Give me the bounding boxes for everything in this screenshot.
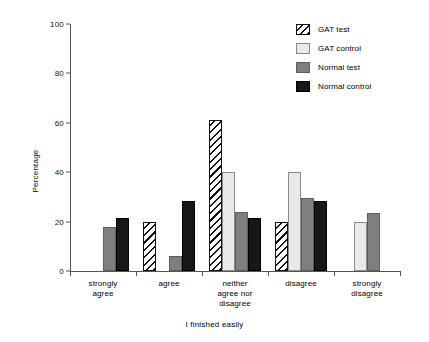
y-tick-label: 40: [0, 168, 70, 177]
legend-item: GAT control: [296, 39, 371, 58]
y-tick-label: 80: [0, 69, 70, 78]
x-category-label-line: agree: [70, 289, 136, 299]
bar: [354, 222, 367, 271]
legend-swatch: [296, 43, 310, 54]
x-category-label-line: neither: [202, 279, 268, 289]
x-category-label-line: disagree: [202, 299, 268, 309]
x-tick-mark: [334, 271, 335, 276]
bar: [116, 218, 129, 271]
legend-label: Normal control: [318, 82, 371, 91]
x-axis-line: [70, 271, 401, 272]
bar: [314, 201, 327, 271]
bar: [209, 120, 222, 271]
x-tick-mark: [136, 271, 137, 276]
legend-swatch: [296, 62, 310, 73]
x-category-label: disagree: [268, 279, 334, 289]
legend-label: GAT control: [318, 44, 361, 53]
bar: [103, 227, 116, 271]
chart-legend: GAT testGAT controlNormal testNormal con…: [296, 20, 371, 96]
x-category-label: agree: [136, 279, 202, 289]
legend-label: GAT test: [318, 25, 350, 34]
bar: [248, 218, 261, 271]
legend-label: Normal test: [318, 63, 360, 72]
bar: [143, 222, 156, 271]
bar: [275, 222, 288, 271]
bar: [169, 256, 182, 271]
x-category-label: neitheragree nordisagree: [202, 279, 268, 309]
legend-swatch: [296, 81, 310, 92]
bar: [222, 172, 235, 271]
legend-item: Normal test: [296, 58, 371, 77]
x-tick-mark: [202, 271, 203, 276]
x-category-label-line: agree: [136, 279, 202, 289]
x-category-label-line: agree nor: [202, 289, 268, 299]
legend-item: GAT test: [296, 20, 371, 39]
bar: [301, 198, 314, 271]
bar: [182, 201, 195, 271]
x-category-label: stronglyagree: [70, 279, 136, 299]
legend-item: Normal control: [296, 77, 371, 96]
x-tick-mark: [268, 271, 269, 276]
bar: [235, 212, 248, 271]
x-category-label-line: disagree: [334, 289, 400, 299]
bar: [288, 172, 301, 271]
x-category-label-line: disagree: [268, 279, 334, 289]
y-tick-label: 0: [0, 267, 70, 276]
x-tick-mark: [70, 271, 71, 276]
x-category-label-line: strongly: [334, 279, 400, 289]
legend-swatch: [296, 24, 310, 35]
x-category-label-line: strongly: [70, 279, 136, 289]
bar-chart: Percentage 020406080100 stronglyagreeagr…: [0, 0, 429, 342]
x-category-label: stronglydisagree: [334, 279, 400, 299]
x-axis-title: I finished easily: [0, 320, 429, 329]
y-tick-label: 20: [0, 217, 70, 226]
x-tick-mark: [400, 271, 401, 276]
y-tick-label: 100: [0, 20, 70, 29]
y-tick-label: 60: [0, 118, 70, 127]
bar: [367, 213, 380, 271]
